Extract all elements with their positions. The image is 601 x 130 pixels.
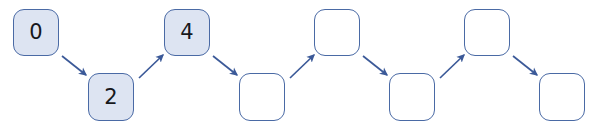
connector-arrow-up-right	[139, 55, 163, 78]
connector-arrow-up-right	[290, 55, 314, 78]
node-label: 0	[29, 22, 42, 43]
node-box-empty[interactable]	[539, 73, 585, 121]
node-box-filled[interactable]: 0	[13, 9, 59, 56]
connector-arrow-down-right	[213, 56, 237, 75]
node-box-empty[interactable]	[239, 73, 285, 121]
node-box-filled[interactable]: 2	[88, 73, 134, 121]
node-box-empty[interactable]	[464, 9, 510, 56]
arrow-group	[62, 55, 537, 78]
node-box-empty[interactable]	[389, 73, 435, 121]
node-label: 4	[180, 22, 193, 43]
node-label: 2	[104, 87, 117, 108]
diagram-canvas: 024	[0, 0, 601, 130]
connector-arrow-down-right	[363, 56, 387, 75]
connector-arrow-down-right	[513, 56, 537, 75]
connector-arrow-down-right	[62, 56, 86, 75]
node-box-empty[interactable]	[314, 9, 360, 56]
connector-arrow-up-right	[440, 55, 464, 78]
node-box-filled[interactable]: 4	[164, 9, 210, 56]
